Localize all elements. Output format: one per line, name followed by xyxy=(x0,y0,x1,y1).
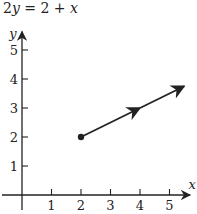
x-tick-label: 5 xyxy=(165,198,173,213)
y-tick-label: 2 xyxy=(10,130,18,145)
x-axis-label: x xyxy=(188,177,196,192)
y-tick-label: 5 xyxy=(10,43,18,58)
y-tick-label: 3 xyxy=(10,101,18,116)
chart: 1234512345 x y xyxy=(0,0,197,214)
x-tick-label: 3 xyxy=(106,198,114,213)
y-tick-label: 1 xyxy=(10,159,18,174)
x-tick-label: 2 xyxy=(77,198,85,213)
ray-segment-with-end-arrow xyxy=(140,86,184,108)
start-point-dot xyxy=(78,134,84,140)
x-tick-label: 1 xyxy=(47,198,55,213)
ray-segment-with-mid-arrow xyxy=(81,108,140,137)
y-tick-label: 4 xyxy=(10,72,18,87)
y-axis-label: y xyxy=(8,26,17,41)
x-tick-label: 4 xyxy=(136,198,144,213)
